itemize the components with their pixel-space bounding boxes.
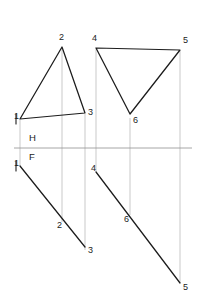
label-vertex-6-top: 6 bbox=[133, 115, 138, 125]
label-vertex-5-top: 5 bbox=[183, 35, 188, 45]
label-vertex-2-front: 2 bbox=[57, 220, 62, 230]
label-vertex-3-top: 3 bbox=[88, 107, 93, 117]
projector-line-group bbox=[20, 48, 180, 283]
label-vertex-5-front: 5 bbox=[183, 282, 188, 292]
descriptive-geometry-drawing: 1 2 3 4 5 6 1 2 3 4 6 5 H F bbox=[0, 0, 199, 307]
triangle-4-5-6-front-view bbox=[96, 172, 180, 283]
label-vertex-1-top: 1 bbox=[14, 111, 19, 121]
label-vertex-2-top: 2 bbox=[59, 32, 64, 42]
label-vertex-6-front: 6 bbox=[124, 214, 129, 224]
label-vertex-3-front: 3 bbox=[88, 245, 93, 255]
label-vertex-1-front: 1 bbox=[14, 158, 19, 168]
triangle-1-2-3-top-view bbox=[20, 47, 85, 119]
label-vertex-4-front: 4 bbox=[91, 163, 96, 173]
label-horizontal-plane: H bbox=[29, 132, 36, 143]
label-frontal-plane: F bbox=[29, 151, 35, 162]
drawing-canvas: 1 2 3 4 5 6 1 2 3 4 6 5 H F bbox=[0, 0, 199, 307]
label-vertex-4-top: 4 bbox=[92, 33, 97, 43]
triangle-1-2-3-front-view bbox=[20, 166, 85, 247]
triangle-4-5-6-top-view bbox=[96, 48, 180, 114]
